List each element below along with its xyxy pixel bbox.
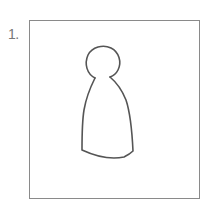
peg-doll-figure-icon — [0, 0, 217, 207]
figure-body — [82, 77, 133, 158]
figure-head — [86, 46, 120, 78]
